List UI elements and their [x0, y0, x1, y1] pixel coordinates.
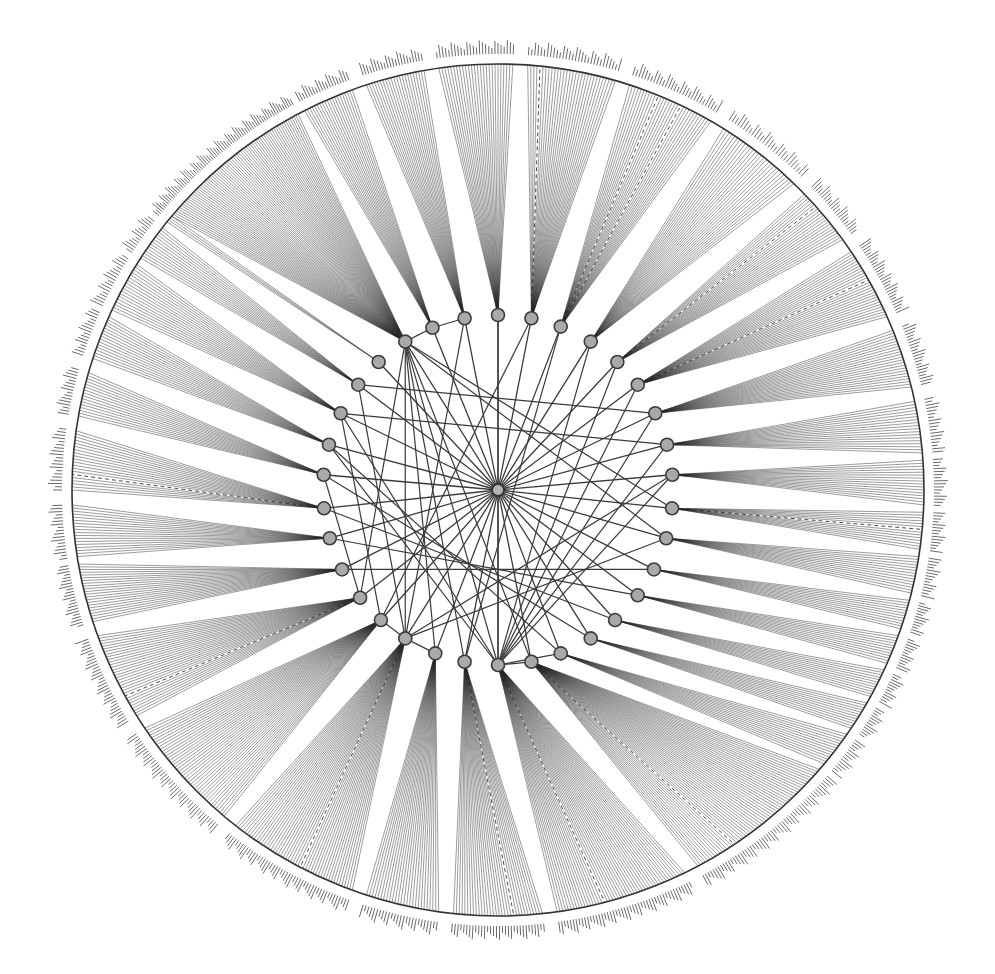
leaf-label	[641, 902, 643, 908]
leaf-edge	[561, 90, 645, 327]
leaf-label	[740, 853, 748, 865]
leaf-label	[160, 772, 165, 777]
leaf-label	[113, 268, 120, 272]
leaf-label	[599, 914, 602, 926]
leaf-edge	[286, 121, 406, 342]
leaf-edge	[498, 64, 504, 315]
leaf-label	[220, 141, 226, 149]
leaf-label	[66, 382, 75, 384]
leaf-label	[64, 395, 72, 397]
leaf-label	[735, 118, 739, 124]
leaf-label	[788, 815, 795, 823]
leaf-label	[72, 616, 81, 619]
leaf-label	[346, 72, 349, 81]
leaf-label	[246, 121, 252, 130]
leaf-edge	[561, 102, 673, 327]
leaf-label	[662, 80, 665, 86]
leaf-label	[473, 46, 474, 55]
leaf-label	[92, 309, 100, 313]
leaf-edge	[278, 638, 405, 854]
leaf-label	[464, 49, 465, 55]
leaf-label	[105, 690, 111, 693]
leaf-edge	[672, 508, 923, 523]
leaf-label	[406, 917, 408, 924]
leaf-label	[585, 55, 587, 63]
leaf-label	[464, 925, 465, 933]
leaf-label	[200, 816, 209, 826]
leaf-label	[621, 908, 624, 918]
leaf-label	[143, 751, 149, 755]
leaf-label	[141, 219, 151, 226]
leaf-edge	[79, 567, 342, 570]
leaf-label	[336, 77, 339, 85]
leaf-label	[665, 893, 667, 899]
leaf-label	[127, 249, 133, 253]
leaf-label	[822, 190, 831, 198]
leaf-label	[907, 335, 914, 338]
leaf-edge	[203, 620, 381, 797]
leaf-label	[930, 432, 944, 434]
leaf-edge	[531, 662, 796, 795]
leaf-label	[768, 832, 775, 841]
leaf-label	[177, 179, 185, 187]
leaf-label	[582, 52, 584, 62]
leaf-edge	[531, 71, 573, 319]
leaf-label	[791, 813, 800, 823]
leaf-edge	[638, 282, 870, 384]
leaf-label	[439, 45, 441, 58]
leaf-label	[838, 210, 847, 218]
leaf-label	[62, 397, 72, 399]
leaf-label	[312, 87, 315, 94]
leaf-edge	[561, 114, 698, 327]
leaf-label	[302, 85, 308, 98]
leaf-label	[832, 770, 842, 778]
leaf-label	[122, 255, 128, 259]
leaf-label	[57, 571, 70, 573]
leaf-label	[632, 905, 635, 914]
leaf-edge	[135, 267, 341, 413]
leaf-edge	[498, 665, 624, 897]
leaf-label	[889, 294, 896, 298]
leaf-edge	[531, 662, 753, 831]
leaf-edge	[471, 65, 498, 315]
leaf-label	[372, 908, 375, 920]
leaf-edge	[561, 88, 639, 327]
leaf-label	[646, 900, 649, 909]
leaf-label	[885, 283, 898, 289]
leaf-label	[63, 577, 71, 579]
leaf-label	[53, 537, 65, 538]
leaf-label	[688, 91, 691, 97]
leaf-label	[85, 323, 94, 327]
leaf-edge	[104, 598, 360, 652]
leaf-label	[572, 54, 573, 61]
leaf-label	[932, 530, 941, 531]
leaf-edge	[591, 138, 738, 342]
leaf-label	[395, 59, 397, 66]
leaf-edge	[638, 285, 872, 385]
leaf-label	[930, 548, 936, 549]
leaf-edge	[615, 620, 873, 692]
leaf-label	[773, 147, 777, 152]
leaf-edge	[85, 387, 324, 475]
leaf-label	[85, 664, 98, 670]
leaf-label	[633, 67, 636, 76]
ring-node	[631, 378, 644, 391]
leaf-label	[424, 920, 426, 930]
leaf-edge	[617, 194, 804, 362]
leaf-label	[228, 837, 235, 846]
leaf-label	[752, 125, 760, 136]
leaf-label	[932, 451, 943, 452]
leaf-label	[135, 739, 140, 742]
leaf-label	[341, 898, 344, 905]
leaf-label	[359, 905, 363, 917]
leaf-label	[384, 63, 386, 69]
leaf-edge	[72, 474, 324, 508]
leaf-label	[760, 136, 764, 142]
leaf-label	[708, 872, 711, 877]
leaf-label	[933, 513, 945, 514]
leaf-label	[135, 229, 144, 235]
leaf-edge	[81, 404, 324, 474]
leaf-label	[190, 806, 198, 815]
leaf-label	[644, 901, 647, 909]
leaf-label	[597, 57, 599, 66]
